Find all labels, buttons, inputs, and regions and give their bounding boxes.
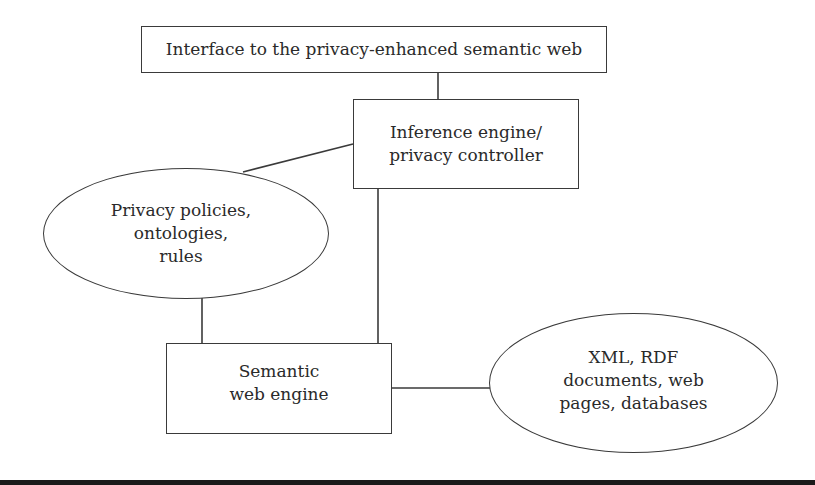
semantic-web-engine-node: Semantic web engine <box>166 343 392 434</box>
privacy-policies-label: Privacy policies, ontologies, rules <box>111 199 251 268</box>
documents-node: XML, RDF documents, web pages, databases <box>489 313 778 453</box>
inference-engine-node: Inference engine/ privacy controller <box>353 99 579 189</box>
privacy-policies-node: Privacy policies, ontologies, rules <box>43 168 329 299</box>
documents-label: XML, RDF documents, web pages, databases <box>559 346 707 415</box>
edge-inference-policies <box>243 144 353 172</box>
interface-node: Interface to the privacy-enhanced semant… <box>141 26 607 73</box>
bottom-rule <box>0 480 815 485</box>
inference-engine-label: Inference engine/ privacy controller <box>389 121 543 167</box>
interface-label: Interface to the privacy-enhanced semant… <box>166 38 582 61</box>
semantic-web-engine-label: Semantic web engine <box>229 360 328 406</box>
